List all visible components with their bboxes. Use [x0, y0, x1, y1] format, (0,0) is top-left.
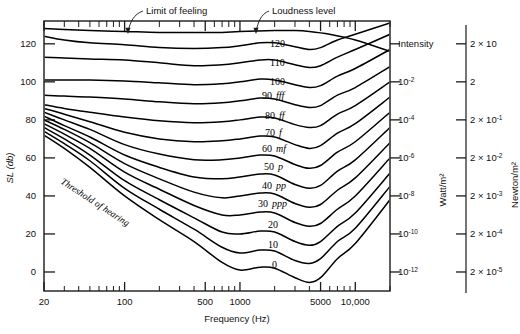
secondary-tick-label: 2 × 10-5 — [470, 266, 503, 278]
x-tick-label: 100 — [117, 296, 133, 307]
secondary-tick-label: 10-6 — [398, 152, 415, 164]
curve-label-text: 100 — [270, 76, 285, 87]
secondary-axis-title: Watt/m² — [437, 174, 448, 207]
threshold-of-hearing-label: Threshold of hearing — [59, 176, 132, 228]
curve-label-10: 10 — [268, 239, 278, 250]
secondary-tick-label: 10-4 — [398, 114, 415, 126]
equal-loudness-chart: 201005001000500010,000Frequency (Hz) 020… — [0, 0, 520, 334]
curve-label-text: 30ppp — [258, 198, 287, 209]
curve-label-50: 50p — [264, 161, 283, 172]
plot-frame — [44, 21, 390, 291]
figure-root: 201005001000500010,000Frequency (Hz) 020… — [0, 0, 520, 334]
secondary-tick-label: 2 × 10-4 — [470, 228, 503, 240]
x-tick-label: 5000 — [310, 296, 331, 307]
curve-label-80: 80ff — [265, 110, 286, 121]
limit-of-feeling-label: Limit of feeling — [146, 5, 207, 16]
y-tick-label: 20 — [25, 228, 36, 239]
x-tick-label: 1000 — [229, 296, 250, 307]
top-axis-ticks — [44, 21, 390, 31]
y-tick-label: 80 — [25, 114, 36, 125]
secondary-tick-label: 2 × 10 — [470, 38, 497, 49]
secondary-tick-label: 2 × 10-2 — [470, 152, 503, 164]
curve-label-text: 80ff — [265, 110, 286, 121]
x-axis-title: Frequency (Hz) — [204, 313, 269, 324]
curve-label-text: 110 — [270, 57, 285, 68]
curve-label-text: 60mf — [262, 143, 287, 154]
secondary-tick-label: 10-2 — [398, 76, 415, 88]
secondary-axes-group: Intensity10-210-410-610-810-1010-12Watt/… — [390, 25, 520, 293]
y-tick-label: 120 — [20, 38, 36, 49]
x-tick-label: 10,000 — [341, 296, 370, 307]
curve-label-text: 120 — [270, 38, 285, 49]
curve-label-110: 110 — [270, 57, 285, 68]
y-tick-label: 100 — [20, 76, 36, 87]
y-axis-title: SL (db) — [4, 153, 15, 184]
secondary-tick-label: 2 × 10-1 — [470, 114, 503, 126]
x-tick-label: 20 — [39, 296, 50, 307]
curve-label-120: 120 — [270, 38, 285, 49]
y-axis-ticks: 020406080100120SL (db) — [4, 38, 55, 277]
curve-label-text: 40pp — [262, 180, 286, 191]
y-tick-label: 40 — [25, 190, 36, 201]
y-tick-label: 0 — [31, 266, 36, 277]
secondary-tick-label: 10-10 — [398, 228, 418, 240]
curve-label-40: 40pp — [262, 180, 286, 191]
curve-label-text: 10 — [268, 239, 278, 250]
loudness-level-label: Loudness level — [272, 5, 335, 16]
curve-label-text: 70f — [265, 127, 283, 138]
curve-label-70: 70f — [265, 127, 283, 138]
annotation-limit-of-feeling: Limit of feeling — [125, 5, 207, 34]
secondary-tick-label: 10-8 — [398, 190, 415, 202]
curve-phon-100 — [44, 50, 390, 88]
curve-phon-20 — [44, 127, 390, 245]
secondary-tick-label: 2 × 10-3 — [470, 190, 503, 202]
curve-phon-30 — [44, 124, 390, 227]
curve-label-text: 20 — [268, 219, 278, 230]
secondary-tick-label: 10-12 — [398, 266, 418, 278]
intensity-axis: Intensity10-210-410-610-810-1010-12Watt/… — [390, 38, 448, 277]
secondary-axis-title: Newton/m² — [509, 162, 520, 208]
curve-label-0: 0 — [272, 259, 277, 270]
secondary-tick-label: 2 — [470, 76, 475, 87]
curve-label-60: 60mf — [262, 143, 287, 154]
plot-border — [44, 21, 390, 291]
curve-phon-90 — [44, 67, 390, 108]
y-tick-label: 60 — [25, 152, 36, 163]
annotation-threshold-of-hearing: Threshold of hearing — [59, 176, 132, 228]
x-tick-label: 500 — [197, 296, 213, 307]
curve-label-20: 20 — [268, 219, 278, 230]
x-axis-ticks: 201005001000500010,000Frequency (Hz) — [39, 282, 390, 324]
annotation-loudness-level: Loudness level — [253, 5, 335, 34]
curve-label-text: 50p — [264, 161, 283, 172]
curves-group — [44, 23, 390, 283]
curve-label-text: 0 — [272, 259, 277, 270]
curve-label-30: 30ppp — [258, 198, 287, 209]
curve-label-100: 100 — [270, 76, 285, 87]
curve-phon-80 — [44, 82, 390, 128]
annotations-group: Limit of feelingLoudness levelThreshold … — [59, 5, 335, 228]
secondary-tick-label: Intensity — [398, 38, 434, 49]
pressure-axis: 2 × 1022 × 10-12 × 10-22 × 10-32 × 10-42… — [456, 25, 520, 293]
